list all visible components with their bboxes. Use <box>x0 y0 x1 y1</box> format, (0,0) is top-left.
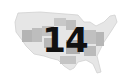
state-block <box>96 32 104 46</box>
state-block <box>22 30 32 42</box>
map-count-label: 14 <box>40 20 90 60</box>
